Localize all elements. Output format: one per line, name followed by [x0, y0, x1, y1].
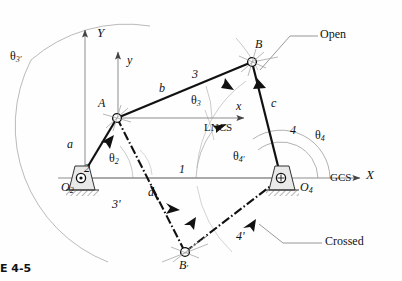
joint-label-O2: O2	[61, 181, 74, 195]
callout-leaders	[259, 36, 322, 243]
pin-joint-B	[239, 49, 266, 76]
link-4-arrow-top	[253, 77, 266, 89]
theta2-sub: 2	[115, 157, 119, 166]
joint-label-O4-sub: 4	[309, 186, 313, 195]
link-4-prime-arrow-a	[184, 217, 196, 230]
figure-canvas: Y X GCS y x LNCS A B O2 O4 B' a b c d 2 …	[0, 0, 402, 281]
link-3-number-label: 3	[192, 68, 198, 80]
joint-label-O4-text: O	[300, 180, 309, 194]
joint-label-O2-sub: 2	[70, 186, 74, 195]
joint-label-B: B	[255, 38, 262, 50]
link-2-letter-label: a	[67, 138, 73, 150]
link-4-prime	[185, 178, 281, 252]
joint-label-B-prime: B'	[179, 259, 188, 273]
link-3-coupler	[117, 62, 252, 118]
ground-pivot-O4	[266, 166, 299, 196]
open-hint-line	[257, 57, 278, 61]
link-4-letter-label: c	[271, 97, 276, 109]
link-3-arrow	[221, 78, 234, 90]
link-2-number-label: 2	[84, 162, 90, 174]
joint-label-O2-text: O	[61, 180, 70, 194]
callout-open-label: Open	[320, 28, 346, 40]
theta3-sub: 3	[197, 99, 201, 108]
angle-label-theta2: θ2	[109, 152, 119, 166]
joint-label-A: A	[98, 97, 105, 109]
local-x-axis-label: x	[236, 100, 241, 112]
link-1-number-label: 1	[179, 163, 185, 175]
link-3-prime-number-label: 3'	[112, 198, 121, 210]
link-4-number-label: 4	[290, 124, 296, 136]
joint-label-B-prime-sub: '	[186, 264, 188, 273]
global-x-axis-label: X	[366, 168, 374, 181]
link-2-arrow	[101, 135, 114, 149]
link-1-letter-label: d	[148, 186, 154, 198]
link-4-prime-number-label: 4'	[236, 230, 245, 242]
theta3-prime-sub: 3'	[16, 55, 22, 64]
global-y-axis-label: Y	[97, 26, 104, 39]
theta4-sub: 4	[321, 134, 325, 143]
callout-crossed-label: Crossed	[325, 235, 364, 247]
link-3-letter-label: b	[159, 82, 165, 94]
figure-caption: E 4-5	[0, 263, 31, 274]
angle-label-theta4-prime: θ4'	[233, 150, 244, 164]
angle-label-theta3: θ3	[191, 94, 201, 108]
angle-label-theta3-prime: θ3'	[10, 50, 21, 64]
theta4-prime-sub: 4'	[239, 155, 245, 164]
local-y-axis-label: y	[127, 54, 132, 66]
global-coordinate-system-label: GCS	[330, 172, 351, 183]
local-coordinate-system-label: LNCS	[204, 122, 232, 133]
theta3-prime-arrow	[166, 203, 180, 214]
joint-label-O4: O4	[300, 181, 313, 195]
angle-label-theta4: θ4	[315, 129, 325, 143]
